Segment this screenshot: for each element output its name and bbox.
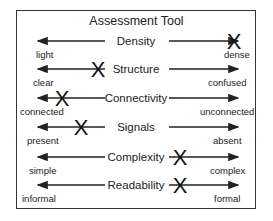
x-mark-icon: X — [173, 145, 188, 170]
x-mark-icon: X — [74, 115, 89, 140]
mark-layer: XXXXXX — [55, 29, 242, 198]
x-mark-icon: X — [91, 57, 106, 82]
arrow-layer — [38, 41, 238, 185]
x-mark-icon: X — [55, 86, 70, 111]
scale-arrows: XXXXXX — [0, 0, 273, 221]
x-mark-icon: X — [173, 173, 188, 198]
x-mark-icon: X — [227, 29, 242, 54]
